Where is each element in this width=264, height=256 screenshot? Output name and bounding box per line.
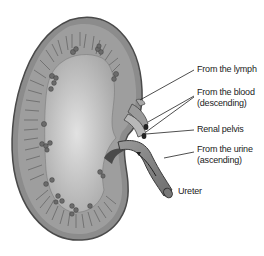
label-ureter: Ureter xyxy=(178,186,202,197)
leader-lines xyxy=(140,70,194,158)
label-from-urine: From the urine xyxy=(197,144,253,155)
label-from-blood: From the blood xyxy=(197,87,255,98)
label-renal-pelvis: Renal pelvis xyxy=(197,124,244,135)
kidney-diagram: From the lymph From the blood (descendin… xyxy=(0,0,264,256)
label-from-blood-sub: (descending) xyxy=(197,98,247,109)
label-from-urine-sub: (ascending) xyxy=(197,155,242,166)
label-from-lymph: From the lymph xyxy=(197,64,257,75)
